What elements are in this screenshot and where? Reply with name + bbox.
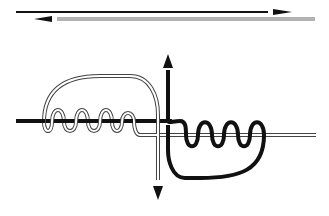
light-rope-straight <box>34 16 315 22</box>
arrow-right-icon <box>273 9 292 15</box>
bottom-panel <box>16 54 316 200</box>
top-panel <box>16 9 315 22</box>
light-rope-wraps <box>16 76 163 200</box>
arrow-left-icon <box>34 16 52 22</box>
arrow-up-icon <box>163 54 173 68</box>
arrow-down-icon <box>153 186 163 200</box>
knot-diagram <box>0 0 329 216</box>
dark-rope-straight <box>16 9 292 15</box>
dark-rope-wraps <box>163 54 316 178</box>
